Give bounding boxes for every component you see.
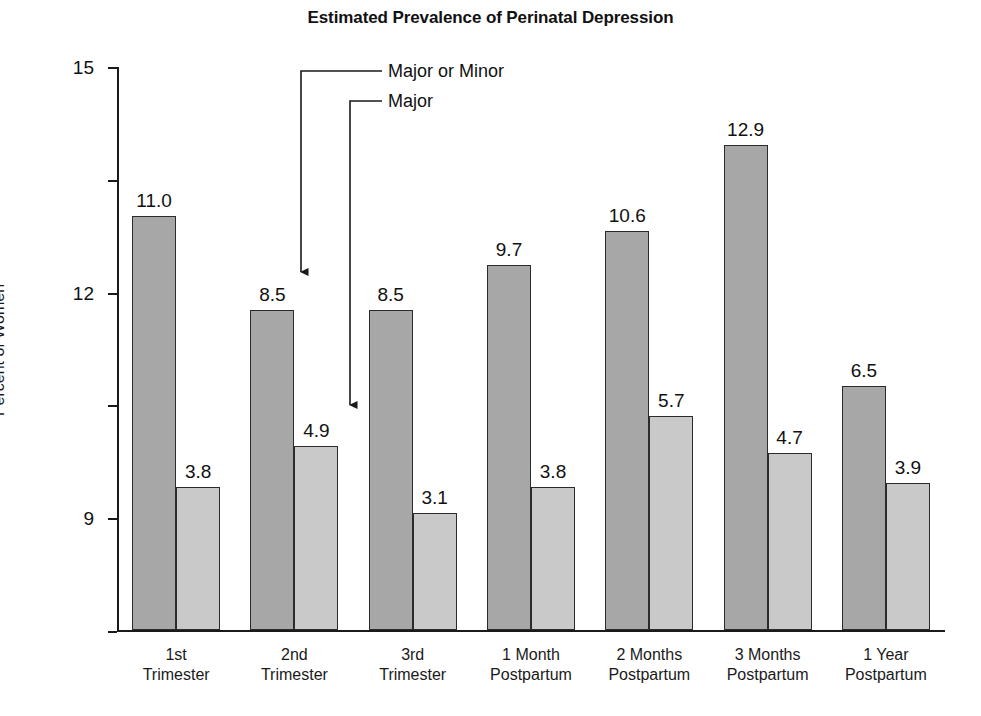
bar-value-label: 11.0 <box>136 191 172 210</box>
bar-value-label: 3.1 <box>421 488 447 507</box>
bar-value-label: 4.9 <box>303 421 329 440</box>
x-category-label-line: 3 Months <box>727 645 809 665</box>
bar-value-label: 9.7 <box>496 240 522 259</box>
bar-value-label: 5.7 <box>658 391 684 410</box>
bar-value-label: 4.7 <box>776 428 802 447</box>
bar-value-label: 12.9 <box>727 120 764 139</box>
x-category-label: 2 MonthsPostpartum <box>608 645 690 686</box>
x-category-label-line: 2nd <box>261 645 328 665</box>
y-tick-mark: 15 <box>108 67 117 69</box>
bar-major <box>768 453 812 630</box>
bar-major-or-minor <box>132 216 176 630</box>
bar-major-or-minor <box>842 386 886 630</box>
y-tick-mark: 12 <box>108 180 117 182</box>
y-axis-line <box>117 67 119 632</box>
y-tick-label: 12 <box>73 283 94 302</box>
x-category-label-line: Trimester <box>379 665 446 685</box>
bar-value-label: 8.5 <box>259 285 285 304</box>
x-category-label: 3 MonthsPostpartum <box>727 645 809 686</box>
x-category-label-line: Trimester <box>261 665 328 685</box>
x-category-label-line: Postpartum <box>608 665 690 685</box>
x-category-label: 1 MonthPostpartum <box>490 645 572 686</box>
y-tick-label: 15 <box>73 58 94 77</box>
bar-major <box>886 483 930 630</box>
x-category-label-line: Postpartum <box>490 665 572 685</box>
bar-major <box>413 513 457 630</box>
bar-major <box>176 487 220 630</box>
bar-value-label: 8.5 <box>377 285 403 304</box>
bar-value-label: 3.8 <box>540 462 566 481</box>
chart-figure: Estimated Prevalence of Perinatal Depres… <box>0 0 981 716</box>
bar-value-label: 10.6 <box>609 206 646 225</box>
bar-major-or-minor <box>724 145 768 630</box>
bar-major <box>531 487 575 630</box>
y-tick-mark: 6 <box>108 405 117 407</box>
x-category-label-line: 3rd <box>379 645 446 665</box>
bar-major-or-minor <box>369 310 413 630</box>
bar-major <box>649 416 693 630</box>
y-tick-mark: 9 <box>108 293 117 295</box>
x-category-label: 1 YearPostpartum <box>845 645 927 686</box>
bar-major-or-minor <box>250 310 294 630</box>
y-tick-mark: 0 <box>108 631 117 633</box>
bar-value-label: 6.5 <box>851 361 877 380</box>
bar-value-label: 3.8 <box>185 462 211 481</box>
x-category-label-line: 1 Month <box>490 645 572 665</box>
bar-major <box>294 446 338 630</box>
x-axis-line <box>117 630 945 632</box>
annotation-label-major-or-minor: Major or Minor <box>388 62 504 80</box>
x-category-label: 3rdTrimester <box>379 645 446 686</box>
x-category-label-line: 2 Months <box>608 645 690 665</box>
bar-major-or-minor <box>605 231 649 630</box>
x-category-label: 1stTrimester <box>143 645 210 686</box>
x-category-label-line: 1 Year <box>845 645 927 665</box>
plot-area: 03691215 11.03.88.54.98.53.19.73.810.65.… <box>117 67 945 631</box>
x-category-label-line: Postpartum <box>727 665 809 685</box>
bar-value-label: 3.9 <box>895 458 921 477</box>
x-category-label-line: Postpartum <box>845 665 927 685</box>
chart-title: Estimated Prevalence of Perinatal Depres… <box>0 8 981 28</box>
y-axis-label: Percent of Women <box>0 250 8 450</box>
x-category-label-line: Trimester <box>143 665 210 685</box>
x-category-label-line: 1st <box>143 645 210 665</box>
annotation-label-major: Major <box>388 92 433 110</box>
y-tick-mark: 3 <box>108 518 117 520</box>
bar-major-or-minor <box>487 265 531 630</box>
y-tick-label: 9 <box>83 509 94 528</box>
x-category-label: 2ndTrimester <box>261 645 328 686</box>
